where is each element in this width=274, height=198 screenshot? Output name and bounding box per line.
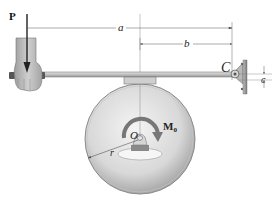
pivot-label: C: [221, 60, 231, 75]
lever-bar: [14, 72, 232, 84]
force-label: P: [9, 10, 16, 22]
dimension-b-label: b: [184, 37, 190, 49]
pivot-support: [231, 60, 247, 94]
dimension-c-label: c: [261, 74, 266, 85]
radius-label: r: [110, 147, 114, 158]
lever-disk-diagram: P a b C c O r M0: [0, 0, 274, 198]
dimension-a-label: a: [118, 21, 124, 33]
center-label: O: [130, 129, 138, 141]
dimension-a: [27, 22, 232, 80]
